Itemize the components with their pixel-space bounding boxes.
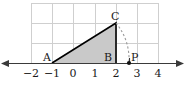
point-label-c: C <box>111 11 119 22</box>
number-line-triangle-figure: −2−101234 ABCP <box>0 0 186 86</box>
left-arrow-icon <box>1 60 9 67</box>
point-label-p: P <box>131 52 138 63</box>
axis-tick-label-neg1: −1 <box>44 68 60 79</box>
right-arrow-icon <box>176 60 184 67</box>
axis-tick-label-0: 0 <box>70 68 77 79</box>
point-label-b: B <box>104 52 112 63</box>
axis-tick-label-1: 1 <box>92 68 99 79</box>
axis-tick-label-neg2: −2 <box>23 68 39 79</box>
point-label-a: A <box>43 52 51 63</box>
axis-tick-label-3: 3 <box>134 68 141 79</box>
axis-tick-label-2: 2 <box>113 68 120 79</box>
axis-tick-label-4: 4 <box>155 68 162 79</box>
